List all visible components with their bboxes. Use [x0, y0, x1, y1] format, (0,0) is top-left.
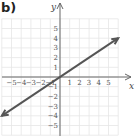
svg-text:x: x: [129, 81, 134, 91]
svg-text:2: 2: [77, 79, 81, 87]
svg-text:4: 4: [54, 35, 59, 43]
svg-text:2: 2: [54, 54, 58, 62]
coordinate-plane: xy −5−4−3−2−11234554321−1−2−3−4−5: [0, 0, 135, 136]
svg-text:−5: −5: [48, 122, 58, 130]
svg-text:3: 3: [54, 44, 58, 52]
svg-text:5: 5: [54, 25, 58, 33]
svg-text:1: 1: [67, 79, 71, 87]
svg-text:5: 5: [106, 79, 110, 87]
svg-text:y: y: [50, 2, 57, 12]
svg-text:3: 3: [87, 79, 91, 87]
svg-text:1: 1: [54, 64, 58, 72]
svg-text:−2: −2: [48, 93, 58, 101]
svg-text:4: 4: [97, 79, 102, 87]
svg-text:−3: −3: [48, 103, 58, 111]
svg-text:−4: −4: [48, 112, 59, 120]
